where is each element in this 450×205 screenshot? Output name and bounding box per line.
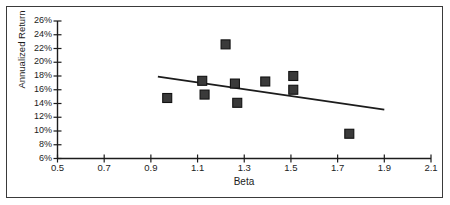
x-tick-label: 0.9 bbox=[131, 162, 171, 173]
trend-line bbox=[158, 77, 384, 110]
data-point-marker bbox=[200, 90, 209, 99]
y-tick-label: 8% bbox=[18, 139, 52, 149]
x-tick-label: 1.5 bbox=[271, 162, 311, 173]
x-tick-label: 1.1 bbox=[178, 162, 218, 173]
y-tick-label: 6% bbox=[18, 153, 52, 163]
data-point-marker bbox=[289, 72, 298, 81]
y-tick-label: 20% bbox=[18, 56, 52, 66]
chart-figure: Annualized Return Beta 6%8%10%12%14%16%1… bbox=[0, 0, 450, 205]
data-point-marker bbox=[233, 98, 242, 107]
y-tick-label: 12% bbox=[18, 111, 52, 121]
data-point-marker bbox=[230, 79, 239, 88]
y-tick-label: 22% bbox=[18, 43, 52, 53]
x-tick-label: 0.7 bbox=[84, 162, 124, 173]
data-point-marker bbox=[221, 40, 230, 49]
x-tick-label: 2.1 bbox=[411, 162, 450, 173]
data-point-marker bbox=[289, 85, 298, 94]
y-tick-label: 26% bbox=[18, 15, 52, 25]
data-point-marker bbox=[345, 129, 354, 138]
data-point-marker bbox=[198, 76, 207, 85]
y-tick-label: 24% bbox=[18, 29, 52, 39]
scatter-plot-canvas bbox=[0, 0, 450, 205]
data-point-marker bbox=[163, 94, 172, 103]
trend-line-segment bbox=[158, 77, 384, 110]
data-point-marker bbox=[261, 77, 270, 86]
x-tick-label: 1.9 bbox=[364, 162, 404, 173]
y-tick-label: 10% bbox=[18, 125, 52, 135]
y-tick-label: 16% bbox=[18, 84, 52, 94]
y-tick-label: 18% bbox=[18, 70, 52, 80]
x-tick-label: 1.3 bbox=[224, 162, 264, 173]
data-points-group bbox=[163, 40, 354, 138]
x-tick-label: 1.7 bbox=[318, 162, 358, 173]
y-tick-label: 14% bbox=[18, 98, 52, 108]
x-tick-label: 0.5 bbox=[38, 162, 78, 173]
